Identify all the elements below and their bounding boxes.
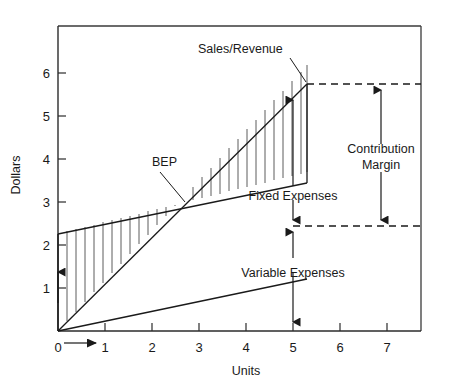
- contribution-margin-arrow: Contribution Margin: [347, 90, 414, 220]
- breakeven-chart-svg: 1 2 3 4 5 6 0 1 2 3 4 5 6 7 Dol: [0, 0, 450, 386]
- variable-cost-line: [58, 279, 307, 331]
- y-axis-tick-labels: 1 2 3 4 5 6: [43, 66, 50, 296]
- y-axis-ticks: [58, 73, 66, 288]
- variable-expenses-arrow: Variable Expenses: [241, 232, 344, 322]
- contribution-margin-label-line1: Contribution: [347, 142, 414, 156]
- variable-expenses-label: Variable Expenses: [241, 266, 344, 280]
- plot-frame: [58, 26, 421, 331]
- bep-annotation: BEP: [152, 155, 185, 202]
- x-axis-ticks: [105, 323, 387, 331]
- y-tick-label-4: 4: [43, 152, 50, 167]
- x-tick-label-1: 1: [101, 340, 108, 355]
- sales-revenue-line: [58, 84, 307, 331]
- y-tick-label-1: 1: [43, 281, 50, 296]
- y-axis-title: Dollars: [9, 156, 23, 195]
- x-tick-label-6: 6: [336, 340, 343, 355]
- y-tick-label-2: 2: [43, 238, 50, 253]
- y-tick-label-3: 3: [43, 195, 50, 210]
- x-tick-label-7: 7: [383, 340, 390, 355]
- y-tick-label-5: 5: [43, 109, 50, 124]
- x-tick-label-0: 0: [54, 340, 61, 355]
- sales-revenue-label: Sales/Revenue: [198, 42, 283, 56]
- fixed-expenses-label: Fixed Expenses: [249, 189, 338, 203]
- sales-revenue-leader-line: [290, 58, 306, 82]
- x-axis-title: Units: [232, 364, 260, 378]
- sales-revenue-annotation: Sales/Revenue: [198, 42, 306, 82]
- breakeven-chart: 1 2 3 4 5 6 0 1 2 3 4 5 6 7 Dol: [0, 0, 450, 386]
- x-tick-label-3: 3: [195, 340, 202, 355]
- bep-label: BEP: [152, 155, 177, 169]
- x-tick-label-2: 2: [148, 340, 155, 355]
- x-axis-tick-labels: 0 1 2 3 4 5 6 7: [54, 340, 390, 355]
- bep-leader-line: [160, 172, 185, 202]
- fixed-expenses-arrow: Fixed Expenses: [249, 100, 338, 220]
- y-tick-label-6: 6: [43, 66, 50, 81]
- contribution-margin-label-line2: Margin: [362, 158, 400, 172]
- x-tick-label-5: 5: [289, 340, 296, 355]
- x-tick-label-4: 4: [242, 340, 249, 355]
